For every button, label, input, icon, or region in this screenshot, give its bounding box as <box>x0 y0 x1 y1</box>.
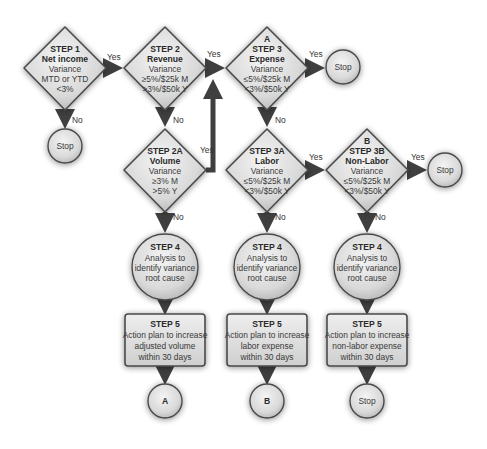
step-text: root cause <box>247 273 286 283</box>
stop-label: Stop <box>436 165 454 175</box>
stop-label: Stop <box>334 62 352 72</box>
step-text: >3%/$50k Y <box>142 84 188 94</box>
process-step4-nonlabor: STEP 4 Analysis to identify variance roo… <box>334 234 400 300</box>
step-title: Volume <box>150 156 181 166</box>
step-text: Variance <box>251 64 284 74</box>
step-text: Action plan to increase <box>225 330 310 340</box>
step-number: STEP 4 <box>352 242 382 252</box>
step-number: STEP 2 <box>150 44 180 54</box>
terminal-stop-4: Stop <box>350 384 384 418</box>
step-text: Analysis to <box>247 253 288 263</box>
step-text: within 30 days <box>339 352 393 362</box>
step-text: Variance <box>149 166 182 176</box>
step-title: Expense <box>249 54 285 64</box>
step-text: ≤5%/$25k M <box>344 176 391 186</box>
terminal-stop-1: Stop <box>48 129 82 163</box>
step-number: STEP 5 <box>352 319 382 329</box>
step-text: identify variance <box>337 263 398 273</box>
connector-label: B <box>364 136 370 146</box>
step-text: <3%/$50k Y <box>244 186 290 196</box>
step-text: ≥5%/$25k M <box>142 74 189 84</box>
step-title: Labor <box>255 156 280 166</box>
arrow-step2a-step3 <box>206 88 213 170</box>
step-number: STEP 5 <box>150 319 180 329</box>
step-text: root cause <box>347 273 386 283</box>
step-text: <3% <box>57 84 75 94</box>
flowchart: Yes Yes Yes No No No Yes Yes Yes No No N… <box>0 0 487 449</box>
step-text: identify variance <box>237 263 298 273</box>
step-number: STEP 2A <box>147 146 183 156</box>
step-text: Action plan to increase <box>325 330 410 340</box>
step-text: ≤5%/$25k M <box>244 176 291 186</box>
step-text: <3%/$50k Y <box>244 84 290 94</box>
step-text: within 30 days <box>239 352 293 362</box>
step-text: Variance <box>149 64 182 74</box>
process-step5-labor: STEP 5 Action plan to increase labor exp… <box>225 314 310 366</box>
step-number: STEP 1 <box>50 44 80 54</box>
step-text: MTD or YTD <box>42 74 89 84</box>
yes-label: Yes <box>411 152 425 162</box>
step-number: STEP 4 <box>252 242 282 252</box>
yes-label: Yes <box>207 49 221 59</box>
decision-step2a: STEP 2A Volume Variance ≥3% M >5% Y <box>124 129 206 212</box>
step-text: Action plan to increase <box>123 330 208 340</box>
step-text: ≥3% M <box>152 176 178 186</box>
step-text: Variance <box>251 166 284 176</box>
no-label: No <box>173 212 184 222</box>
step-number: STEP 3 <box>252 44 282 54</box>
decision-step1: STEP 1 Net income Variance MTD or YTD <3… <box>24 27 106 110</box>
step-text: adjusted volume <box>135 341 196 351</box>
step-text: Variance <box>351 166 384 176</box>
no-label: No <box>375 212 386 222</box>
yes-label: Yes <box>200 145 214 155</box>
step-title: Net income <box>42 54 89 64</box>
stop-label: Stop <box>56 141 74 151</box>
process-step4-volume: STEP 4 Analysis to identify variance roo… <box>132 234 198 300</box>
stop-label: Stop <box>358 396 376 406</box>
terminal-stop-2: Stop <box>326 50 360 84</box>
connector-label: A <box>162 396 168 406</box>
step-text: identify variance <box>135 263 196 273</box>
decision-step3a: STEP 3A Labor Variance ≤5%/$25k M <3%/$5… <box>226 129 308 212</box>
step-text: root cause <box>145 273 184 283</box>
step-text: <3%/$50k Y <box>344 186 390 196</box>
process-step5-nonlabor: STEP 5 Action plan to increase non-labor… <box>325 314 410 366</box>
step-text: labor expense <box>241 341 294 351</box>
yes-label: Yes <box>309 49 323 59</box>
step-title: Non-Labor <box>345 156 389 166</box>
step-number: STEP 3A <box>249 146 285 156</box>
step-text: >5% Y <box>153 186 178 196</box>
yes-label: Yes <box>107 52 121 62</box>
connector-label: B <box>264 396 270 406</box>
connector-b: B <box>250 384 284 418</box>
process-step5-volume: STEP 5 Action plan to increase adjusted … <box>123 314 208 366</box>
yes-label: Yes <box>309 152 323 162</box>
decision-step3b: B STEP 3B Non-Labor Variance ≤5%/$25k M … <box>326 129 408 212</box>
step-text: non-labor expense <box>332 341 402 351</box>
step-text: Analysis to <box>347 253 388 263</box>
step-text: Analysis to <box>145 253 186 263</box>
decision-step2: STEP 2 Revenue Variance ≥5%/$25k M >3%/$… <box>124 27 206 110</box>
connector-a: A <box>148 384 182 418</box>
connector-label: A <box>264 34 270 44</box>
step-title: Revenue <box>147 54 183 64</box>
step-text: Variance <box>49 64 82 74</box>
step-number: STEP 4 <box>150 242 180 252</box>
step-number: STEP 3B <box>349 146 385 156</box>
no-label: No <box>173 115 184 125</box>
no-label: No <box>72 115 83 125</box>
step-number: STEP 5 <box>252 319 282 329</box>
no-label: No <box>275 115 286 125</box>
step-text: within 30 days <box>137 352 191 362</box>
process-step4-labor: STEP 4 Analysis to identify variance roo… <box>234 234 300 300</box>
decision-step3: A STEP 3 Expense Variance ≤5%/$25k M <3%… <box>226 27 308 110</box>
step-text: ≤5%/$25k M <box>244 74 291 84</box>
terminal-stop-3: Stop <box>428 153 462 187</box>
no-label: No <box>275 212 286 222</box>
